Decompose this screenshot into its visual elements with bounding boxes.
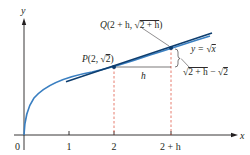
point-q-coord-open: (2 + h,	[107, 20, 135, 31]
point-q-root-arg: 2 + h	[140, 20, 160, 30]
rise-arg-1: 2 + h	[188, 67, 208, 77]
curve-label-arg: x	[211, 44, 217, 54]
y-axis-arrow-icon	[22, 18, 26, 25]
point-q-label: Q(2 + h, √2 + h)	[100, 20, 162, 31]
sqrt-curve	[24, 36, 210, 135]
point-p-marker	[112, 65, 116, 69]
tick-label-2-plus-h-text: 2 + h	[160, 141, 181, 152]
x-axis-arrow-icon	[231, 133, 238, 137]
tick-label-1: 1	[67, 141, 72, 152]
point-p-coord-close: )	[110, 54, 113, 65]
h-label: h	[141, 71, 146, 81]
tick-label-2: 2	[112, 141, 117, 152]
origin-label: 0	[15, 141, 20, 152]
y-axis-label: y	[20, 5, 26, 16]
point-p-label: P(2, √2)	[81, 54, 114, 65]
x-axis-label: x	[239, 130, 245, 141]
tick-label-2-plus-h: 2 + h	[160, 141, 181, 152]
point-q-coord-close: )	[159, 20, 162, 31]
point-p-coord-open: (2,	[88, 54, 101, 65]
secant-line-diagram: y x 0 1 2 2 + h P(2, √2) Q(2 + h, √2 + h…	[0, 0, 250, 155]
point-q-marker	[169, 46, 173, 50]
rise-arg-2: 2	[223, 67, 228, 77]
curve-label-prefix: y =	[190, 44, 206, 54]
curve-label: y = √x	[190, 44, 217, 54]
rise-minus: −	[208, 67, 218, 77]
q-leader-line	[142, 28, 169, 46]
rise-brace	[175, 49, 180, 67]
rise-label: √2 + h − √2	[183, 67, 228, 77]
